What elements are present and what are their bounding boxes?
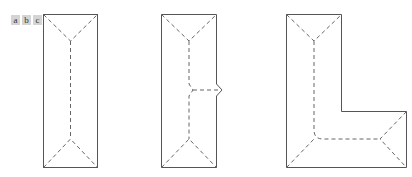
ridge-lines xyxy=(287,15,407,168)
figure-b xyxy=(162,15,223,168)
roof-outline xyxy=(287,15,407,168)
figure-a xyxy=(44,15,98,168)
ridge-lines xyxy=(162,15,223,168)
ridge-lines xyxy=(44,15,98,168)
roof-diagrams xyxy=(0,0,412,177)
figure-c xyxy=(287,15,407,168)
